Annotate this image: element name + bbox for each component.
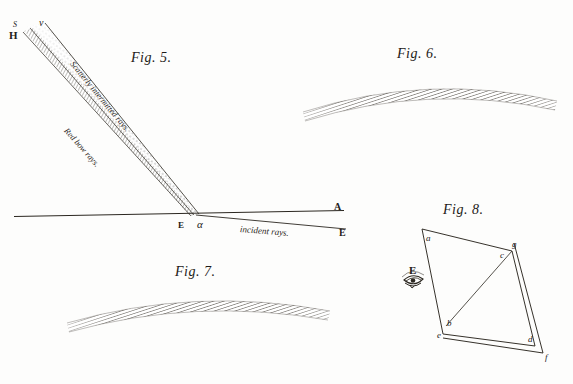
fig8-vertex-b: b [447, 318, 452, 328]
fig8-vertex-a: a [426, 233, 431, 243]
fig8-vertex-d: d [528, 334, 533, 344]
horizon-line [14, 211, 344, 217]
fig5-label-H: H [9, 29, 18, 41]
fig5-caption: Fig. 5. [131, 50, 171, 66]
fig8-vertex-f: f [545, 352, 548, 362]
fig6-arc-veil [303, 89, 557, 121]
geometry-layer [0, 0, 573, 384]
fig5-geometry [14, 23, 346, 229]
fig6-caption: Fig. 6. [397, 46, 437, 62]
fig5-label-v: v [39, 17, 43, 28]
diagonal-b-c [446, 251, 512, 326]
fig7-caption: Fig. 7. [175, 264, 215, 280]
fig5-label-S: S [13, 20, 17, 29]
fig8-vertex-c: c [500, 250, 504, 260]
fig7-geometry [67, 301, 330, 332]
edge-a-e [422, 229, 443, 334]
fig8-caption: Fig. 8. [443, 202, 483, 218]
engraving-plate: Fig. 5. S H v E α A E Scatterly intermit… [0, 0, 573, 384]
fig7-arc-veil [67, 301, 330, 332]
fig5-label-E-vertex: E [178, 220, 184, 230]
fig5-label-B: E [339, 227, 346, 238]
fig6-geometry [303, 89, 557, 121]
edge-c-d [512, 251, 535, 346]
fig8-vertex-g: g [512, 239, 517, 249]
fig8-vertex-e: e [437, 330, 441, 340]
edge-a-c [422, 229, 512, 251]
fig5-label-A: A [334, 201, 341, 212]
fig5-label-alpha: α [197, 218, 203, 230]
fig8-observer-label-E: E [409, 264, 416, 276]
